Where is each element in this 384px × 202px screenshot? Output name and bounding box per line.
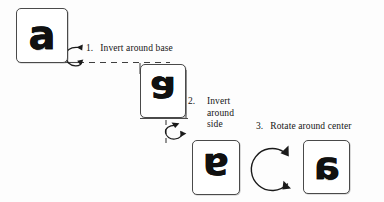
curl-arrow-path-2: [165, 125, 182, 139]
step-text-2-line-2: around: [207, 108, 232, 120]
rotate-arrow-head-bottom: [282, 181, 291, 190]
letter-card-inverted-side: a: [192, 140, 240, 195]
step-number-1: 1.: [86, 43, 93, 53]
letter-glyph-inverted-side: a: [203, 148, 229, 186]
step-label-1: 1.Invert around base: [86, 43, 173, 53]
step-label-3: 3.Rotate around center: [256, 121, 351, 131]
step-text-2-line-1: Invert: [207, 96, 232, 108]
letter-card-inverted-base: a: [140, 64, 186, 118]
letter-glyph-a-original: a: [29, 15, 56, 55]
letter-glyph-inverted-base: a: [150, 71, 176, 109]
curl-arrow-tail-1: [77, 59, 83, 65]
step-number-2: 2.: [188, 96, 195, 108]
letter-glyph-rotated: a: [314, 147, 340, 185]
letter-card-rotated: a: [303, 140, 350, 194]
step-label-2: 2. Invert around side: [188, 96, 232, 131]
transformation-figure: a a a a 1.Invert around base 2. Invert a…: [0, 0, 384, 202]
curl-arrow-head-2: [172, 122, 180, 128]
letter-card-a-original: a: [16, 8, 68, 63]
step-text-1: Invert around base: [100, 43, 173, 53]
step-number-3: 3.: [256, 121, 263, 131]
rotate-arrow-head-top: [281, 146, 289, 157]
step-text-3: Rotate around center: [270, 121, 351, 131]
rotate-arrow-circle: [251, 148, 287, 190]
step-text-2-line-3: side: [207, 119, 232, 131]
curl-arrow-tail-2: [180, 131, 186, 137]
curl-arrow-head-1: [77, 45, 83, 51]
